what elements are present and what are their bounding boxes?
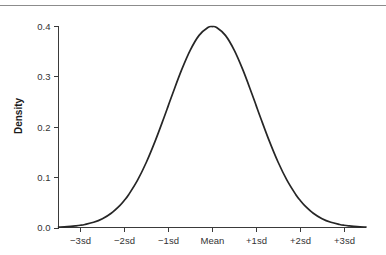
density-chart-figure: 0.00.10.20.30.4 −3sd−2sd−1sdMean+1sd+2sd…	[0, 0, 386, 255]
y-axis-tick-label: 0.1	[37, 172, 50, 183]
y-axis-tick-label: 0.3	[37, 71, 50, 82]
x-axis-tick-label: −3sd	[70, 235, 91, 246]
x-axis-tick-label-group: −3sd−2sd−1sdMean+1sd+2sd+3sd	[70, 235, 355, 246]
x-axis-tick-label: +1sd	[246, 235, 267, 246]
x-axis-tick-label: +2sd	[290, 235, 311, 246]
x-axis-tick-label: +3sd	[334, 235, 355, 246]
normal-density-curve	[59, 26, 367, 227]
y-axis-tick-label-group: 0.00.10.20.30.4	[37, 21, 50, 234]
y-axis-tick-label: 0.2	[37, 122, 50, 133]
x-axis-tick-label: −2sd	[114, 235, 135, 246]
y-axis-tick-group	[54, 27, 59, 229]
y-axis-title: Density	[13, 98, 24, 135]
x-axis-tick-label: Mean	[201, 235, 225, 246]
x-axis-tick-label: −1sd	[158, 235, 179, 246]
y-axis-tick-label: 0.4	[37, 21, 50, 32]
plot-canvas: 0.00.10.20.30.4 −3sd−2sd−1sdMean+1sd+2sd…	[0, 0, 386, 255]
y-axis-tick-label: 0.0	[37, 222, 50, 233]
x-axis-tick-group	[81, 228, 345, 233]
